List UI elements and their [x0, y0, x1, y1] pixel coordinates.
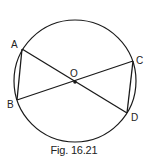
center-point: [73, 80, 77, 84]
chord-cd: [127, 61, 133, 113]
label-o: O: [70, 68, 78, 79]
label-d: D: [131, 112, 138, 123]
label-c: C: [136, 55, 143, 66]
label-a: A: [11, 39, 18, 50]
label-b: B: [7, 99, 14, 110]
circle-diagram: A B C D O: [0, 0, 148, 164]
figure-caption: Fig. 16.21: [0, 144, 148, 156]
